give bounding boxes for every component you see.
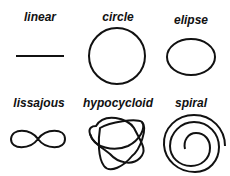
hypocycloid-icon [89, 118, 144, 170]
lissajous-icon [11, 131, 65, 148]
ellipse-icon [167, 39, 215, 75]
spiral-icon [164, 115, 225, 172]
circle-icon [89, 28, 145, 84]
